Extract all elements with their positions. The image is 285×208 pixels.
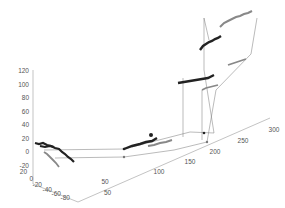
svg-text:100: 100 (18, 81, 29, 88)
svg-text:50: 50 (101, 178, 109, 185)
svg-text:40: 40 (22, 121, 30, 128)
svg-text:20: 20 (22, 135, 30, 142)
svg-text:50: 50 (104, 189, 112, 196)
y-axis-ticks: 20 0 -20 -40 -60 -80 (20, 168, 71, 201)
svg-text:80: 80 (22, 94, 30, 101)
svg-text:-20: -20 (33, 181, 43, 188)
series-dark (35, 36, 221, 162)
svg-text:250: 250 (238, 137, 249, 144)
x-axis-ticks: 50 0 50 100 150 200 250 300 (101, 126, 279, 196)
svg-text:120: 120 (18, 67, 29, 74)
svg-text:200: 200 (210, 148, 221, 155)
svg-text:100: 100 (154, 168, 165, 175)
svg-text:150: 150 (185, 158, 196, 165)
svg-text:300: 300 (269, 126, 280, 133)
svg-text:20: 20 (20, 168, 28, 175)
chart-3d-plot: 120 100 80 60 40 20 0 -20 20 0 -20 -40 -… (0, 0, 285, 208)
svg-text:-80: -80 (61, 194, 71, 201)
connector-lines (44, 18, 257, 158)
z-axis-ticks: 120 100 80 60 40 20 0 -20 (18, 67, 29, 169)
svg-text:60: 60 (22, 108, 30, 115)
series-gray (44, 11, 252, 167)
svg-text:0: 0 (25, 148, 29, 155)
